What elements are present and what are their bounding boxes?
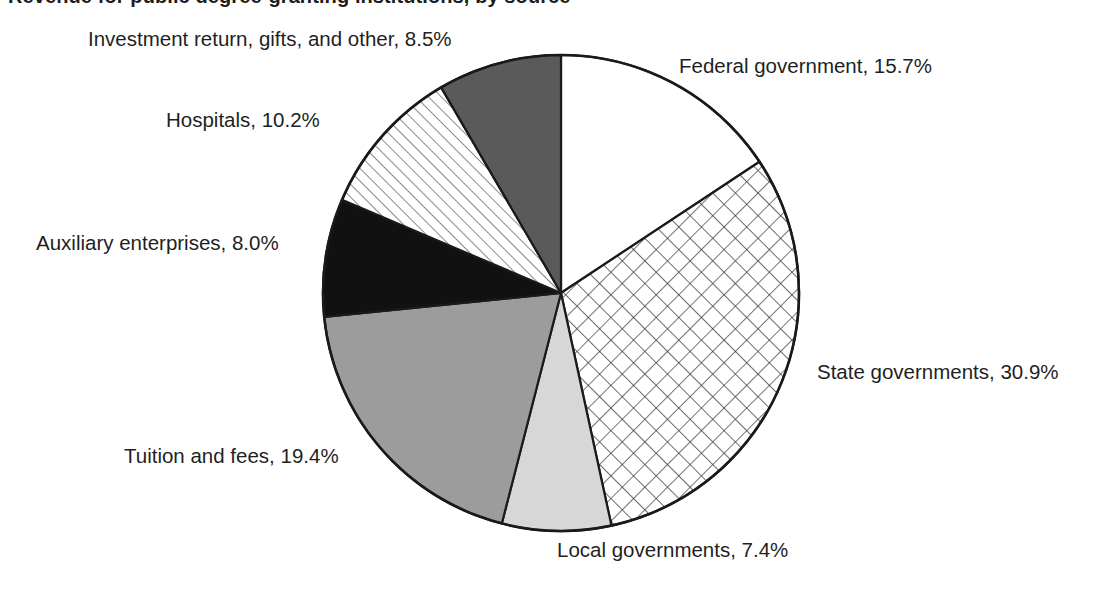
pie-label-state: State governments, 30.9%	[817, 361, 1059, 384]
pie-label-tuition: Tuition and fees, 19.4%	[124, 445, 339, 468]
pie-label-investment: Investment return, gifts, and other, 8.5…	[88, 28, 452, 51]
pie-chart-area	[0, 0, 1107, 590]
pie-label-local: Local governments, 7.4%	[557, 539, 788, 562]
pie-label-hospitals: Hospitals, 10.2%	[166, 109, 320, 132]
pie-label-auxiliary: Auxiliary enterprises, 8.0%	[36, 232, 279, 255]
pie-slices-group	[323, 55, 799, 531]
pie-chart-svg	[0, 0, 1107, 590]
pie-chart-figure: Revenue for public degree-granting insti…	[0, 0, 1107, 590]
pie-label-federal: Federal government, 15.7%	[679, 55, 932, 78]
